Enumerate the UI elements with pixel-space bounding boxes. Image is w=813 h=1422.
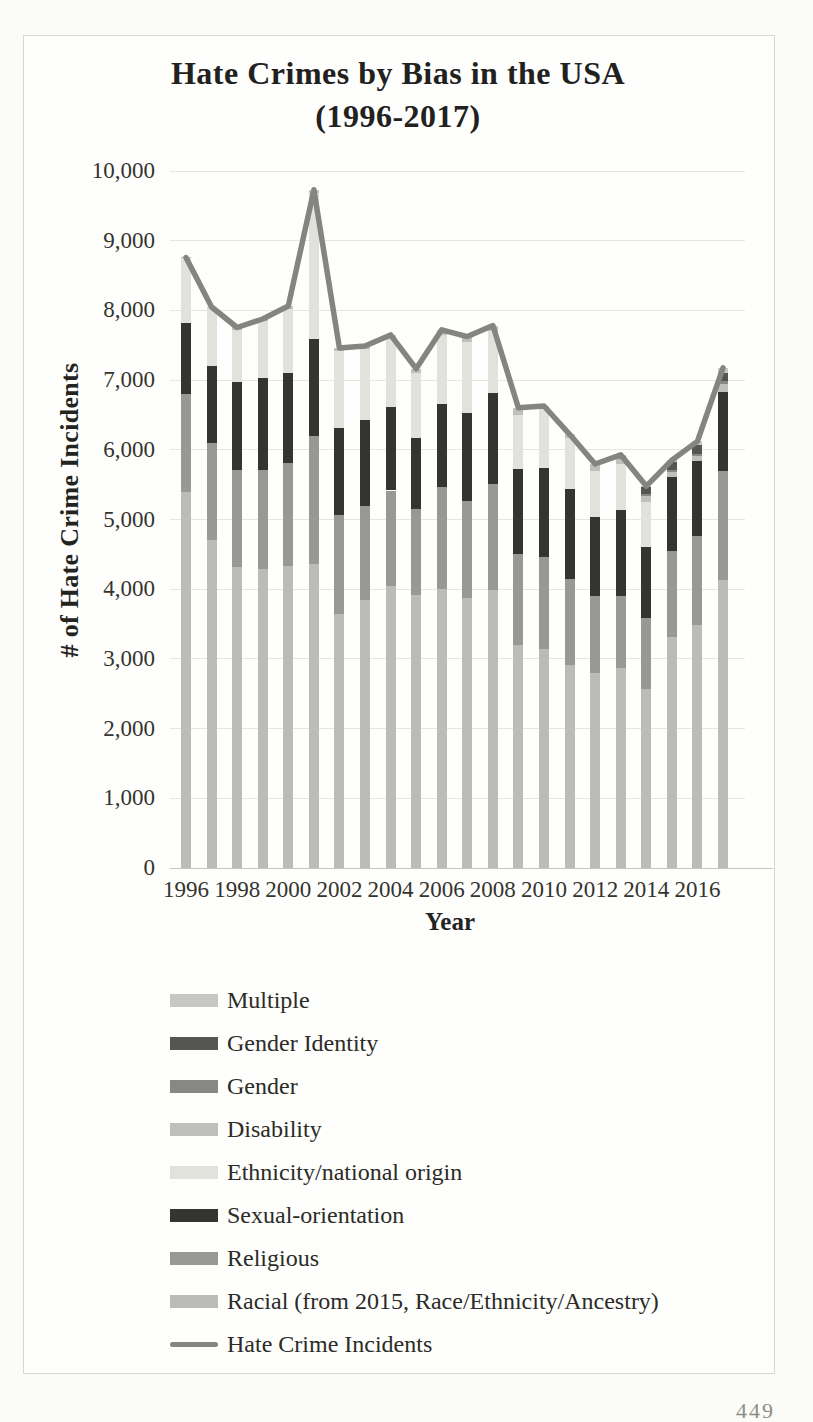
legend-label: Gender Identity [227, 1030, 378, 1057]
legend-item: Multiple [170, 986, 659, 1014]
legend-swatch-box [170, 1037, 218, 1050]
legend-label: Sexual-orientation [227, 1202, 404, 1229]
legend-swatch-box [170, 1080, 218, 1093]
legend-swatch-box [170, 1295, 218, 1308]
legend-item: Disability [170, 1115, 659, 1143]
legend-label: Religious [227, 1245, 319, 1272]
legend-swatch-box [170, 1123, 218, 1136]
legend-label: Disability [227, 1116, 322, 1143]
legend-label: Racial (from 2015, Race/Ethnicity/Ancest… [227, 1288, 659, 1315]
legend-swatch-box [170, 994, 218, 1007]
legend-item: Sexual-orientation [170, 1201, 659, 1229]
legend-label: Hate Crime Incidents [227, 1331, 432, 1358]
legend-swatch-box [170, 1252, 218, 1265]
legend-item: Hate Crime Incidents [170, 1330, 659, 1358]
legend-swatch-box [170, 1166, 218, 1179]
legend-item: Gender [170, 1072, 659, 1100]
legend-item: Racial (from 2015, Race/Ethnicity/Ancest… [170, 1287, 659, 1315]
legend-swatch-line [170, 1342, 218, 1347]
x-axis-title: Year [290, 908, 610, 936]
legend-item: Religious [170, 1244, 659, 1272]
legend-item: Ethnicity/national origin [170, 1158, 659, 1186]
legend-label: Gender [227, 1073, 298, 1100]
total-line [186, 190, 723, 486]
legend-item: Gender Identity [170, 1029, 659, 1057]
legend-label: Multiple [227, 987, 310, 1014]
legend: MultipleGender IdentityGenderDisabilityE… [170, 986, 659, 1358]
page-number: 449 [736, 1398, 775, 1422]
legend-label: Ethnicity/national origin [227, 1159, 462, 1186]
legend-swatch-box [170, 1209, 218, 1222]
